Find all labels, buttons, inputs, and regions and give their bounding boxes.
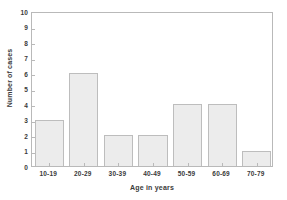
y-tick-mark	[32, 91, 35, 92]
x-tick-label: 40-49	[135, 169, 170, 179]
y-tick-mark	[32, 29, 35, 30]
x-axis-title: Age in years	[31, 184, 273, 191]
y-tick-label: 9	[14, 23, 28, 32]
y-tick-label: 4	[14, 101, 28, 110]
y-tick-label: 2	[14, 132, 28, 141]
y-tick-mark	[32, 44, 35, 45]
plot-area	[31, 12, 273, 167]
y-tick-label: 5	[14, 85, 28, 94]
y-tick-label: 0	[14, 163, 28, 172]
y-tick-label: 7	[14, 54, 28, 63]
y-tick-label: 6	[14, 70, 28, 79]
x-tick-label: 30-39	[100, 169, 135, 179]
bar	[35, 120, 64, 167]
bar	[173, 104, 202, 166]
x-tick-label: 70-79	[238, 169, 273, 179]
y-tick-label: 8	[14, 39, 28, 48]
x-axis-tick-labels: 10-1920-2930-3940-4950-5960-6970-79	[31, 169, 273, 179]
bar	[208, 104, 237, 166]
bar	[69, 73, 98, 166]
x-tick-label: 10-19	[31, 169, 66, 179]
y-tick-mark	[32, 60, 35, 61]
x-tick-mark	[153, 163, 154, 166]
x-tick-mark	[118, 163, 119, 166]
bar-chart-figure: Number of cases 012345678910 10-1920-293…	[0, 0, 287, 200]
x-tick-mark	[84, 163, 85, 166]
y-tick-label: 3	[14, 116, 28, 125]
y-tick-label: 1	[14, 147, 28, 156]
x-tick-mark	[188, 163, 189, 166]
x-tick-mark	[257, 163, 258, 166]
bar	[104, 135, 133, 166]
bar	[138, 135, 167, 166]
x-tick-label: 20-29	[66, 169, 101, 179]
x-tick-label: 50-59	[169, 169, 204, 179]
x-tick-label: 60-69	[204, 169, 239, 179]
y-tick-mark	[32, 75, 35, 76]
x-tick-mark	[49, 163, 50, 166]
y-tick-label: 10	[14, 8, 28, 17]
y-tick-mark	[32, 106, 35, 107]
x-tick-mark	[222, 163, 223, 166]
y-axis-tick-labels: 012345678910	[14, 7, 28, 167]
